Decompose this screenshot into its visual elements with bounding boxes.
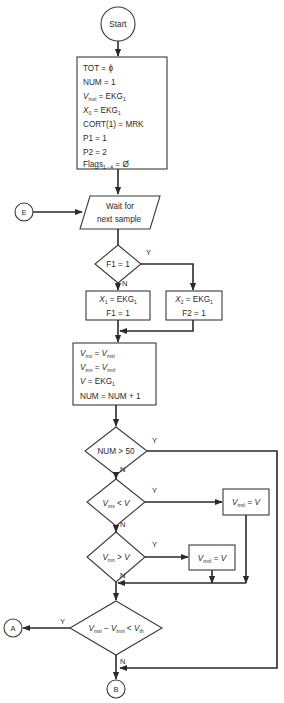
init-line-tot: TOT = ϕ	[83, 64, 113, 73]
box-x2-line1: X2 = EKG1	[174, 295, 213, 305]
connector-b: B	[107, 680, 125, 698]
box-x1: X1 = EKG1 F1 = 1	[86, 291, 150, 320]
decision-vmx: Vmx < V	[87, 479, 145, 526]
start-terminal: Start	[101, 7, 135, 41]
connector-e: E	[15, 203, 33, 221]
decision-num-label: NUM > 50	[97, 447, 135, 456]
threshold-no-label: N	[120, 657, 125, 666]
update-line3: V = EKG1	[80, 377, 115, 387]
vmn-yes-label: Y	[152, 540, 157, 549]
decision-vmx-label: Vmx < V	[103, 499, 131, 509]
box-vmnl-label: Vmnl = V	[198, 554, 228, 564]
decision-f1-label: F1 = 1	[106, 260, 130, 269]
num-no-label: N	[120, 465, 125, 474]
connector-a-label: A	[10, 624, 15, 633]
vmx-yes-label: Y	[152, 486, 157, 495]
threshold-yes-label: Y	[60, 617, 65, 626]
vmx-no-label: N	[120, 520, 125, 529]
decision-f1: F1 = 1	[95, 245, 141, 283]
start-label: Start	[109, 20, 127, 29]
connector-e-label: E	[21, 208, 26, 217]
arrow-x2-merge	[120, 320, 193, 331]
connector-a: A	[4, 619, 22, 637]
flowchart-canvas: Start TOT = ϕ NUM = 1 Vmxl = EKG1 X0 = E…	[0, 0, 284, 703]
wait-io-shape: Wait for next sample	[80, 196, 160, 229]
init-process-box: TOT = ϕ NUM = 1 Vmxl = EKG1 X0 = EKG1 CO…	[77, 57, 167, 170]
box-x1-line1: X1 = EKG1	[98, 295, 137, 305]
box-x2-line2: F2 = 1	[182, 309, 206, 318]
update-line4: NUM = NUM + 1	[80, 392, 141, 401]
wait-line1: Wait for	[106, 202, 134, 211]
arrow-f1-yes	[141, 264, 193, 290]
box-x2: X2 = EKG1 F2 = 1	[166, 291, 222, 320]
connector-b-label: B	[113, 685, 118, 694]
decision-vmn: Vmn > V	[87, 532, 145, 582]
box-vmxl: Vmxl = V	[223, 489, 269, 515]
box-x1-line2: F1 = 1	[106, 309, 130, 318]
vmn-no-label: N	[120, 571, 125, 580]
decision-threshold: Vmxl − Vmnl < Vth	[70, 601, 162, 655]
init-line-x0: X0 = EKG1	[82, 106, 121, 116]
decision-num: NUM > 50	[85, 427, 147, 475]
update-process-box: Vmx = Vmxl Vmn = Vmnl V = EKG1 NUM = NUM…	[73, 343, 156, 405]
init-line-num: NUM = 1	[83, 78, 116, 87]
f1-yes-label: Y	[146, 248, 151, 257]
box-vmxl-label: Vmxl = V	[232, 498, 262, 508]
init-line-cort: CORT(1) = MRK	[83, 120, 144, 129]
wait-line2: next sample	[97, 215, 142, 224]
init-line-p2: P2 = 2	[83, 148, 107, 157]
num-yes-label: Y	[152, 436, 157, 445]
decision-vmn-label: Vmn > V	[102, 553, 131, 563]
box-vmnl: Vmnl = V	[189, 545, 235, 570]
init-line-p1: P1 = 1	[83, 134, 107, 143]
f1-no-label: N	[122, 279, 127, 288]
